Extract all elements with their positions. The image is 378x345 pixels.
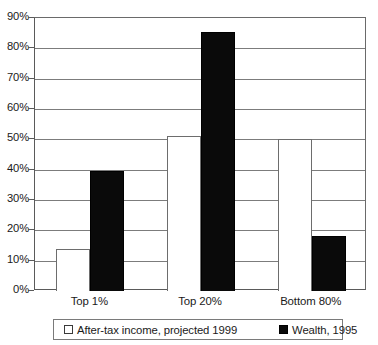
legend-entry-after-tax-income: After-tax income, projected 1999 [64, 324, 237, 336]
y-axis-tick-label: 40% [0, 163, 29, 174]
legend-label-wealth: Wealth, 1995 [292, 324, 357, 336]
y-axis-tick-label: 20% [0, 223, 29, 234]
bar-wealth [312, 236, 346, 291]
light-square-icon [64, 325, 73, 334]
y-axis-tick-label: 0% [0, 284, 29, 295]
gridline [35, 48, 365, 49]
bar-wealth [201, 32, 235, 291]
chart-legend: After-tax income, projected 1999 Wealth,… [53, 319, 343, 340]
y-axis-tick-label: 90% [0, 11, 29, 22]
legend-entry-wealth: Wealth, 1995 [279, 324, 357, 336]
legend-label-after-tax-income: After-tax income, projected 1999 [77, 324, 237, 336]
y-axis-tick-label: 30% [0, 193, 29, 204]
bar-wealth [90, 171, 124, 291]
dark-square-icon [279, 325, 288, 334]
x-axis-label: Top 1% [29, 295, 149, 307]
plot-area [34, 17, 366, 290]
y-axis-tick-mark [28, 290, 34, 291]
y-axis-tick-label: 10% [0, 254, 29, 265]
gridline [35, 109, 365, 110]
gridline [35, 79, 365, 80]
y-axis-tick-label: 70% [0, 72, 29, 83]
bar-after-tax-income [278, 139, 312, 291]
bar-after-tax-income [56, 249, 90, 291]
y-axis-tick-label: 60% [0, 102, 29, 113]
y-axis-tick-label: 80% [0, 41, 29, 52]
x-axis-label: Bottom 80% [251, 295, 371, 307]
x-axis-label: Top 20% [140, 295, 260, 307]
y-axis-tick-label: 50% [0, 132, 29, 143]
bar-after-tax-income [167, 136, 201, 291]
bar-chart: 0%10%20%30%40%50%60%70%80%90% Top 1%Top … [0, 0, 378, 345]
